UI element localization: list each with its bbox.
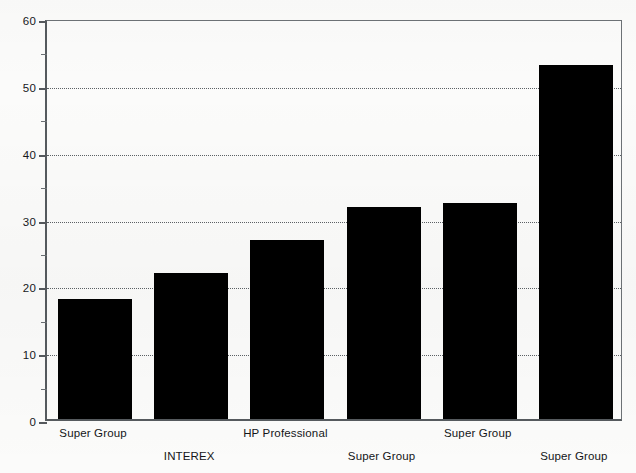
bar (58, 299, 132, 419)
y-tick-minor-45 (41, 121, 47, 122)
gridline-30 (47, 222, 621, 223)
gridline-10 (47, 355, 621, 356)
plot-area: 0102030405060 (45, 20, 622, 421)
y-tick-minor-5 (41, 389, 47, 390)
x-tick-label: INTEREX (164, 450, 215, 462)
y-tick-minor-15 (41, 322, 47, 323)
y-tick-label-60: 60 (23, 15, 36, 27)
y-tick-major-60 (39, 21, 47, 23)
x-tick-label: Super Group (59, 427, 127, 439)
y-tick-major-40 (39, 155, 47, 157)
x-tick-label: Super Group (348, 450, 416, 462)
gridline-40 (47, 155, 621, 156)
y-tick-label-20: 20 (23, 282, 36, 294)
y-tick-major-10 (39, 355, 47, 357)
bar (539, 65, 613, 419)
bar (154, 273, 228, 419)
bar-chart: 0102030405060 Super GroupINTEREXHP Profe… (0, 0, 636, 473)
y-tick-minor-55 (41, 54, 47, 55)
y-tick-major-20 (39, 288, 47, 290)
x-tick-label: HP Professional (243, 427, 328, 439)
bar (250, 240, 324, 419)
bar (347, 207, 421, 419)
y-tick-major-50 (39, 88, 47, 90)
gridline-20 (47, 288, 621, 289)
y-tick-major-30 (39, 222, 47, 224)
x-tick-label: Super Group (540, 450, 608, 462)
y-tick-minor-25 (41, 255, 47, 256)
x-tick-label: Super Group (444, 427, 512, 439)
y-tick-label-10: 10 (23, 349, 36, 361)
bar (443, 203, 517, 419)
y-tick-label-30: 30 (23, 216, 36, 228)
gridline-50 (47, 88, 621, 89)
y-tick-label-0: 0 (29, 416, 36, 428)
y-tick-label-50: 50 (23, 82, 36, 94)
y-tick-minor-35 (41, 188, 47, 189)
y-tick-major-0 (39, 422, 47, 424)
y-tick-label-40: 40 (23, 149, 36, 161)
